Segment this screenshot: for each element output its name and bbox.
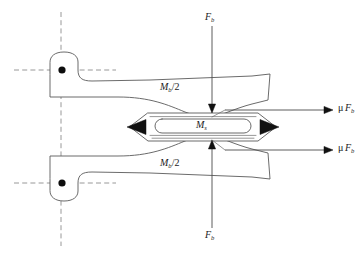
lower-friction-arrowhead-icon: [324, 146, 333, 153]
upper-friction-arrowhead-icon: [324, 106, 333, 113]
label-moment-lower-arm: Mb/2: [160, 158, 179, 168]
upper-pivot-dot: [58, 66, 65, 73]
label-force-top: Fb: [205, 12, 214, 22]
label-force-bottom: Fb: [205, 230, 214, 240]
label-moment-center: Ms: [196, 120, 207, 130]
figure-root: Fb Fb Mb/2 Mb/2 Ms μFb μFb: [0, 0, 364, 256]
label-friction-lower: μFb: [338, 143, 354, 153]
diagram-svg: [0, 0, 364, 256]
label-moment-upper-arm: Mb/2: [160, 82, 179, 92]
lower-caliper-arm: [50, 135, 270, 201]
lower-pivot-dot: [58, 179, 65, 186]
label-friction-upper: μFb: [338, 103, 354, 113]
